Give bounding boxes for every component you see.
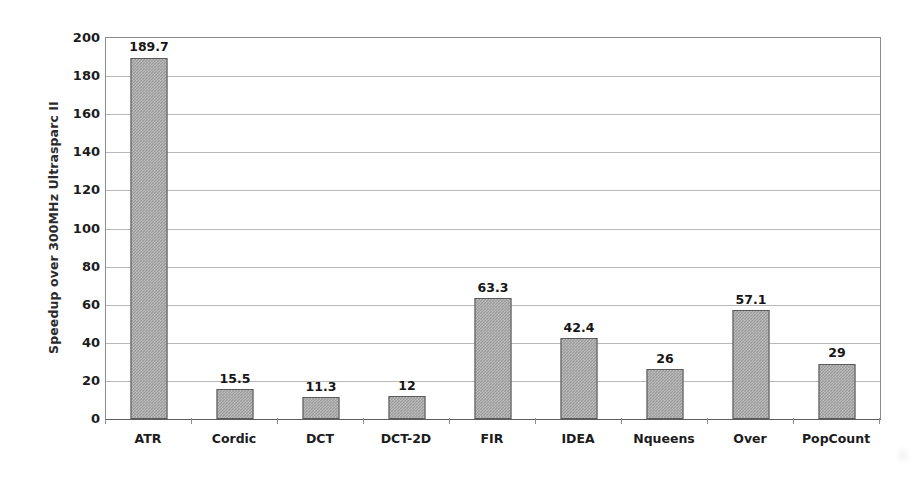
y-axis-tick-label: 80	[56, 259, 100, 272]
bar-chart: Speedup over 300MHz Ultrasparc II 020406…	[0, 0, 924, 483]
bar	[561, 338, 598, 419]
plot-area: 189.715.511.31263.342.42657.129	[105, 37, 881, 420]
bar-group: 15.5	[192, 38, 278, 419]
bar	[647, 369, 684, 419]
bar-group: 11.3	[278, 38, 364, 419]
x-axis-tick	[363, 418, 364, 424]
bar-value-label: 15.5	[220, 373, 251, 386]
bar-group: 29	[794, 38, 880, 419]
scan-artifact	[894, 445, 912, 465]
x-axis-tick	[277, 418, 278, 424]
bar-group: 189.7	[106, 38, 192, 419]
x-axis-tick	[707, 418, 708, 424]
x-axis-category-label: DCT	[306, 432, 334, 446]
x-axis-category-label: IDEA	[561, 432, 594, 446]
x-axis-category-label: ATR	[135, 432, 162, 446]
bar-group: 57.1	[708, 38, 794, 419]
x-axis-tick	[793, 418, 794, 424]
bar-value-label: 63.3	[478, 282, 509, 295]
bar-value-label: 42.4	[564, 322, 595, 335]
x-axis-ticks	[105, 418, 881, 425]
bar-group: 12	[364, 38, 450, 419]
x-axis-category-label: PopCount	[802, 432, 870, 446]
y-axis-tick-label: 0	[56, 412, 100, 425]
bar	[475, 298, 512, 419]
x-axis-category-label: Nqueens	[633, 432, 695, 446]
y-axis-tick-label: 40	[56, 335, 100, 348]
bar-value-label: 57.1	[736, 294, 767, 307]
bar	[819, 364, 856, 419]
x-axis-tick	[105, 418, 106, 424]
x-axis-tick	[879, 418, 880, 424]
x-axis-tick	[449, 418, 450, 424]
y-axis-tick-label: 120	[56, 183, 100, 196]
bar-value-label: 26	[656, 353, 673, 366]
bars-layer: 189.715.511.31263.342.42657.129	[106, 38, 880, 419]
bar-value-label: 189.7	[129, 41, 169, 54]
x-axis-category-label: FIR	[481, 432, 504, 446]
y-axis-tick-label: 100	[56, 221, 100, 234]
y-axis-tick-label: 60	[56, 297, 100, 310]
bar-group: 26	[622, 38, 708, 419]
y-axis-tick-label: 140	[56, 145, 100, 158]
bar	[303, 397, 340, 419]
x-axis-tick	[621, 418, 622, 424]
y-axis-tick-label: 160	[56, 107, 100, 120]
x-axis-category-label: Over	[733, 432, 766, 446]
bar-value-label: 29	[828, 347, 845, 360]
y-axis-tick-label: 200	[56, 31, 100, 44]
x-axis-category-label: Cordic	[212, 432, 257, 446]
bar-value-label: 12	[398, 380, 415, 393]
x-axis-tick	[535, 418, 536, 424]
bar	[389, 396, 426, 419]
y-axis-tick-labels: 020406080100120140160180200	[56, 37, 100, 418]
y-axis-tick-label: 20	[56, 373, 100, 386]
bar	[217, 389, 254, 419]
bar	[131, 58, 168, 419]
x-axis-tick	[191, 418, 192, 424]
bar	[733, 310, 770, 419]
x-axis-tick-labels: ATRCordicDCTDCT-2DFIRIDEANqueensOverPopC…	[105, 432, 879, 456]
bar-group: 63.3	[450, 38, 536, 419]
bar-group: 42.4	[536, 38, 622, 419]
y-axis-tick-label: 180	[56, 69, 100, 82]
bar-value-label: 11.3	[306, 381, 337, 394]
x-axis-category-label: DCT-2D	[381, 432, 432, 446]
